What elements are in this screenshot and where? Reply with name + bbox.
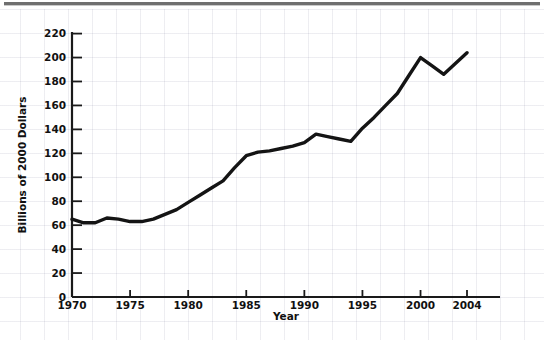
y-tick-label: 80 — [51, 195, 66, 207]
x-axis-title: Year — [272, 310, 300, 322]
x-tick-label: 1970 — [57, 299, 86, 311]
y-tick-label: 200 — [44, 51, 66, 63]
y-tick-label: 160 — [44, 99, 66, 111]
line-chart-svg: 020406080100120140160180200220 197019751… — [0, 0, 544, 340]
y-axis-tick-labels: 020406080100120140160180200220 — [44, 27, 66, 302]
y-tick-label: 60 — [51, 219, 66, 231]
x-axis-tick-labels: 19701975198019851990199520002004 — [57, 299, 481, 311]
y-tick-label: 100 — [44, 171, 66, 183]
y-axis-ticks — [72, 34, 82, 273]
x-tick-label: 1995 — [348, 299, 377, 311]
x-tick-label: 1975 — [115, 299, 144, 311]
y-tick-label: 40 — [51, 243, 66, 255]
data-line-series — [72, 53, 467, 223]
x-tick-label: 2000 — [406, 299, 435, 311]
y-tick-label: 120 — [44, 147, 66, 159]
y-tick-label: 140 — [44, 123, 66, 135]
x-tick-label: 1980 — [174, 299, 203, 311]
y-axis-title: Billions of 2000 Dollars — [16, 97, 28, 234]
y-tick-label: 180 — [44, 75, 66, 87]
x-tick-label: 1985 — [232, 299, 261, 311]
y-tick-label: 220 — [44, 27, 66, 39]
plot-area: 020406080100120140160180200220 197019751… — [0, 0, 544, 340]
chart-figure: 020406080100120140160180200220 197019751… — [0, 0, 544, 340]
x-tick-label: 2004 — [452, 299, 481, 311]
y-tick-label: 20 — [51, 267, 66, 279]
